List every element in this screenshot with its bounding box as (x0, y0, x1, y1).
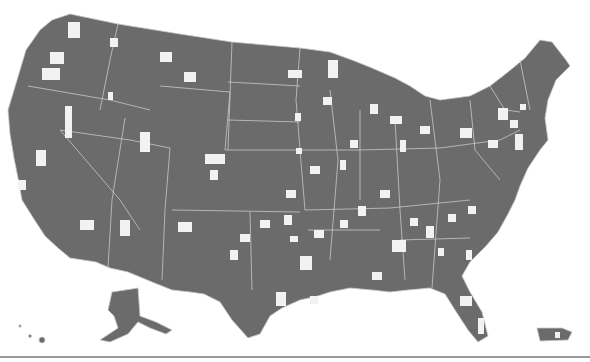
map-canvas (0, 0, 590, 362)
contiguous-us-landmass (8, 14, 570, 342)
us-county-map (0, 0, 590, 362)
bottom-divider (0, 356, 590, 358)
puerto-rico-landmass (537, 328, 572, 341)
alaska-landmass (100, 288, 172, 342)
hawaii-islands (19, 325, 45, 343)
